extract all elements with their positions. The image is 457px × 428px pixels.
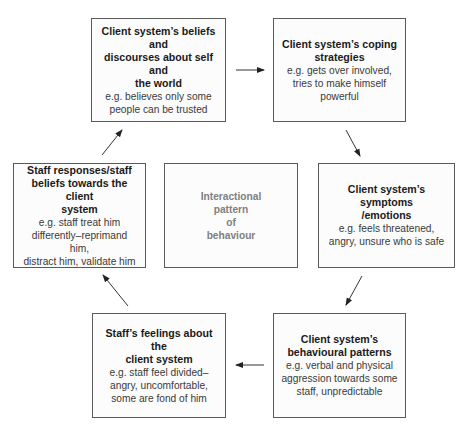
example-line: e.g. gets over involved, [287,64,392,77]
example-line: staff, unpredictable [281,385,397,398]
box-client-coping: Client system’s coping strategies e.g. g… [273,18,406,122]
box-staff-responses: Staff responses/staff beliefs towards th… [13,163,146,268]
example-line: differently–reprimand [23,229,135,242]
center-line: behaviour [201,229,262,242]
title-line: Client system’s coping [282,38,397,51]
box-example: e.g. staff feel divided– angry, uncomfor… [110,366,209,405]
center-line: pattern [201,203,262,216]
title-line: the world [98,77,219,90]
example-line: some are fond of him [110,392,209,405]
box-example: e.g. verbal and physical aggression towa… [281,359,397,398]
box-example: e.g. believes only some people can be tr… [105,90,211,116]
box-title: Staff’s feelings about the client system [99,327,219,366]
title-line: Staff responses/staff [20,164,139,177]
title-line: client system [99,353,219,366]
arrow-staff-feelings-to-staff-responses [103,275,128,306]
example-line: angry, unsure who is safe [329,235,444,248]
title-line: strategies [282,51,397,64]
example-line: powerful [287,90,392,103]
box-staff-feelings: Staff’s feelings about the client system… [92,313,226,418]
arrow-staff-responses-to-beliefs [102,130,122,155]
title-line: Client system’s [287,333,391,346]
box-example: e.g. staff treat him differently–reprima… [23,216,135,268]
example-line: aggression towards some [281,372,397,385]
box-title: Client system’s beliefs and discourses a… [98,25,219,90]
arrow-symptoms-to-behavioural [346,276,362,305]
box-title: Client system’s coping strategies [282,38,397,64]
title-line: beliefs towards the client [20,177,139,203]
example-line: people can be trusted [105,103,211,116]
box-client-symptoms: Client system’s symptoms /emotions e.g. … [318,163,455,268]
title-line: behavioural patterns [287,346,391,359]
example-line: e.g. staff treat him [23,216,135,229]
box-client-behavioural: Client system’s behavioural patterns e.g… [273,313,406,418]
example-line: e.g. verbal and physical [281,359,397,372]
example-line: angry, uncomfortable, [110,379,209,392]
title-line: system [20,203,139,216]
box-title: Staff responses/staff beliefs towards th… [20,164,139,216]
box-title: Client system’s behavioural patterns [287,333,391,359]
example-line: distract him, validate him [23,255,135,268]
title-line: Staff’s feelings about the [99,327,219,353]
title-line: Client system’s beliefs and [98,25,219,51]
example-line: e.g. staff feel divided– [110,366,209,379]
center-line: of [201,216,262,229]
arrow-coping-to-symptoms [346,130,360,156]
box-client-beliefs: Client system’s beliefs and discourses a… [91,18,226,122]
box-example: e.g. gets over involved, tries to make h… [287,64,392,103]
example-line: e.g. believes only some [105,90,211,103]
center-label: Interactional pattern of behaviour [201,190,262,242]
example-line: him, [23,242,135,255]
example-line: e.g. feels threatened, [329,222,444,235]
box-title: Client system’s symptoms /emotions [325,183,448,222]
title-line: discourses about self and [98,51,219,77]
title-line: /emotions [325,209,448,222]
example-line: tries to make himself [287,77,392,90]
box-interactional-pattern: Interactional pattern of behaviour [164,163,298,268]
box-example: e.g. feels threatened, angry, unsure who… [329,222,444,248]
center-line: Interactional [201,190,262,203]
title-line: Client system’s symptoms [325,183,448,209]
